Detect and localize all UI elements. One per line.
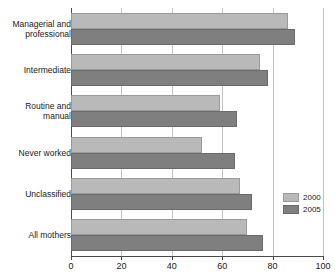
bar-2000-0: [71, 13, 288, 29]
bar-2005-0: [71, 29, 295, 45]
bar-2000-1: [71, 54, 260, 70]
x-tick-label-20: 20: [116, 261, 126, 272]
bar-2005-2: [71, 111, 237, 127]
category-label-0: Managerial and professional: [0, 19, 71, 39]
legend-item-2000: 2000: [283, 192, 333, 203]
x-tick-label-80: 80: [268, 261, 278, 272]
bar-2000-3: [71, 137, 202, 153]
bar-chart: 020406080100 Managerial and professional…: [0, 0, 335, 276]
bar-2005-3: [71, 153, 235, 169]
legend-label-2005: 2005: [303, 204, 321, 215]
x-tick-mark-60: [222, 256, 223, 260]
bar-2005-5: [71, 235, 263, 251]
legend-label-2000: 2000: [303, 192, 321, 203]
category-label-3: Never worked: [0, 148, 71, 158]
legend-item-2005: 2005: [283, 204, 333, 215]
x-tick-mark-20: [121, 256, 122, 260]
x-tick-mark-40: [172, 256, 173, 260]
bar-2000-2: [71, 95, 220, 111]
x-tick-label-100: 100: [315, 261, 330, 272]
x-tick-mark-100: [323, 256, 324, 260]
x-tick-label-60: 60: [217, 261, 227, 272]
category-label-2: Routine and manual: [0, 101, 71, 121]
x-tick-mark-0: [71, 256, 72, 260]
category-label-5: All mothers: [0, 230, 71, 240]
bar-2005-1: [71, 70, 268, 86]
category-label-1: Intermediate: [0, 65, 71, 75]
bar-2000-5: [71, 219, 247, 235]
x-tick-label-0: 0: [68, 261, 73, 272]
gridline-80: [273, 8, 274, 256]
bar-2000-4: [71, 178, 240, 194]
x-tick-label-40: 40: [167, 261, 177, 272]
category-label-4: Unclassified: [0, 189, 71, 199]
legend-swatch-2000: [283, 193, 299, 202]
chart-legend: 2000 2005: [283, 192, 333, 216]
legend-swatch-2005: [283, 205, 299, 214]
x-axis-line: [71, 256, 324, 257]
bar-2005-4: [71, 194, 252, 210]
gridline-100: [323, 8, 324, 256]
x-tick-mark-80: [273, 256, 274, 260]
